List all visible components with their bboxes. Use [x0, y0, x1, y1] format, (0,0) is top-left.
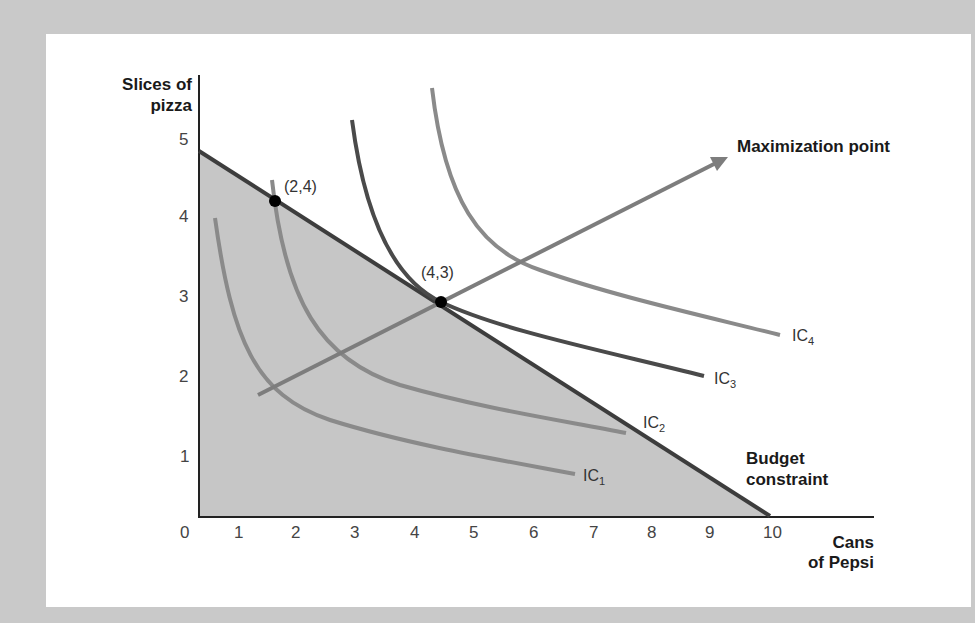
ic3-label: IC3	[714, 370, 736, 390]
point-label-2-4: (2,4)	[284, 178, 317, 196]
point-2-4	[269, 195, 281, 207]
ic4-label: IC4	[792, 327, 814, 347]
x-tick-5: 5	[469, 523, 478, 543]
ic2-label: IC2	[643, 414, 665, 434]
y-tick-1: 1	[180, 447, 189, 467]
point-4-3	[435, 296, 447, 308]
x-tick-7: 7	[589, 523, 598, 543]
point-label-4-3: (4,3)	[421, 264, 454, 282]
y-tick-5: 5	[179, 130, 188, 150]
ic4-label-sub: 4	[808, 335, 814, 347]
ic2-label-sub: 2	[659, 422, 665, 434]
x-tick-1: 1	[234, 523, 243, 543]
ic1-label: IC1	[583, 467, 605, 487]
x-tick-0: 0	[180, 523, 189, 543]
x-axis-title-line1: Cans	[832, 533, 874, 553]
x-tick-9: 9	[705, 523, 714, 543]
x-tick-3: 3	[350, 523, 359, 543]
ic1-label-text: IC	[583, 467, 599, 484]
ic4-label-text: IC	[792, 327, 808, 344]
y-axis-title-line1: Slices of	[122, 75, 192, 95]
budget-constraint-label-line2: constraint	[746, 470, 828, 490]
ic4-curve	[432, 88, 780, 335]
ic3-label-text: IC	[714, 370, 730, 387]
ic2-label-text: IC	[643, 414, 659, 431]
x-tick-2: 2	[291, 523, 300, 543]
ic1-label-sub: 1	[599, 475, 605, 487]
y-tick-4: 4	[179, 207, 188, 227]
budget-constraint-label-line1: Budget	[746, 449, 805, 469]
y-tick-3: 3	[179, 287, 188, 307]
ic3-label-sub: 3	[730, 378, 736, 390]
x-axis-title-line2: of Pepsi	[808, 553, 874, 573]
x-tick-10: 10	[763, 523, 782, 543]
x-tick-8: 8	[647, 523, 656, 543]
x-tick-6: 6	[529, 523, 538, 543]
maximization-point-label: Maximization point	[737, 137, 890, 157]
x-tick-4: 4	[410, 523, 419, 543]
y-tick-2: 2	[179, 367, 188, 387]
y-axis-title-line2: pizza	[150, 96, 192, 116]
